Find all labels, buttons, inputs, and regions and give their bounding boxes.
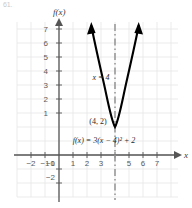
x-tick-3: 3 (99, 159, 104, 168)
function-equation-label: f(x) = 3(x − 4)² + 2 (73, 136, 136, 145)
y-tick-2: 2 (44, 95, 49, 104)
parabola-right-arrowhead (134, 22, 143, 35)
x-tick-6: 6 (141, 159, 146, 168)
graph-plot-area: f(x) x 7 6 5 4 3 2 1 −1 −2 0 0 −2 −1 1 (0, 0, 192, 208)
x-tick-2: 2 (85, 159, 90, 168)
y-axis (55, 18, 63, 202)
x-tick-7: 7 (155, 159, 160, 168)
x-tick-1: 1 (71, 159, 76, 168)
y-axis-label: f(x) (53, 7, 66, 17)
y-tick-4: 4 (44, 67, 49, 76)
x-tick-minus-2: −2 (26, 159, 36, 168)
y-tick-minus-2: −2 (46, 173, 56, 182)
figure-page: 61. (0, 0, 192, 208)
y-tick-7: 7 (44, 25, 49, 34)
parabola-left-arrowhead (87, 22, 96, 35)
y-tick-6: 6 (44, 39, 49, 48)
x-tick-5: 5 (127, 159, 132, 168)
y-tick-1: 1 (44, 109, 49, 118)
grid-lines (17, 22, 178, 197)
origin-label: 0 (51, 159, 56, 168)
y-tick-3: 3 (44, 81, 49, 90)
x-axis-label: x (183, 150, 188, 160)
vertex-point-label: (4, 2) (89, 117, 107, 126)
x-tick-labels: −2 −1 1 2 3 5 6 7 (26, 159, 159, 168)
axis-of-symmetry-label: x = 4 (92, 73, 110, 82)
parabola-graph-svg: f(x) x 7 6 5 4 3 2 1 −1 −2 0 0 −2 −1 1 (0, 0, 192, 208)
y-tick-5: 5 (44, 53, 49, 62)
x-tick-minus-1: −1 (40, 159, 50, 168)
